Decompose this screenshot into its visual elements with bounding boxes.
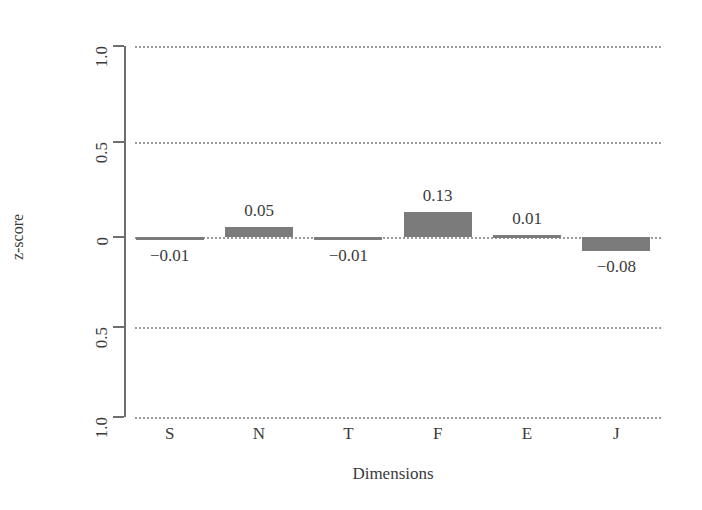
y-axis-title: z-score (9, 214, 27, 260)
gridline (135, 142, 661, 144)
bar-e (493, 235, 561, 238)
y-axis-tick (113, 45, 124, 47)
y-axis-tick (113, 236, 124, 238)
x-axis-tick-label-j: J (613, 424, 620, 444)
bar-f (404, 212, 472, 237)
gridline (135, 327, 661, 329)
x-axis-tick-label-t: T (343, 424, 353, 444)
y-axis-tick (113, 326, 124, 328)
y-axis-tick-label: 1.0 (92, 417, 112, 438)
y-axis-tick-label: 0.5 (92, 142, 112, 163)
bar-value-label-f: 0.13 (423, 186, 453, 206)
gridline (135, 417, 661, 419)
bar-t (314, 237, 382, 240)
x-axis-tick-label-s: S (165, 424, 174, 444)
chart-figure: z-score 1.00.500.51.0 −0.010.05−0.010.13… (0, 0, 702, 510)
y-axis-tick-label: 0.5 (92, 327, 112, 348)
bar-value-label-j: −0.08 (597, 257, 636, 277)
x-axis-title: Dimensions (352, 464, 433, 484)
bar-value-label-t: −0.01 (329, 246, 368, 266)
bar-n (225, 227, 293, 237)
y-axis-tick-label: 1.0 (92, 46, 112, 67)
bar-s (136, 237, 204, 240)
bar-value-label-s: −0.01 (150, 246, 189, 266)
y-axis-line (124, 46, 126, 417)
bar-j (582, 237, 650, 251)
y-axis-tick (113, 416, 124, 418)
y-axis-tick (113, 141, 124, 143)
x-axis-tick-label-f: F (433, 424, 442, 444)
gridline (135, 46, 661, 48)
y-axis-tick-label: 0 (92, 237, 112, 246)
x-axis-tick-label-n: N (253, 424, 265, 444)
bar-value-label-n: 0.05 (244, 201, 274, 221)
x-axis-tick-label-e: E (522, 424, 532, 444)
bar-value-label-e: 0.01 (512, 209, 542, 229)
